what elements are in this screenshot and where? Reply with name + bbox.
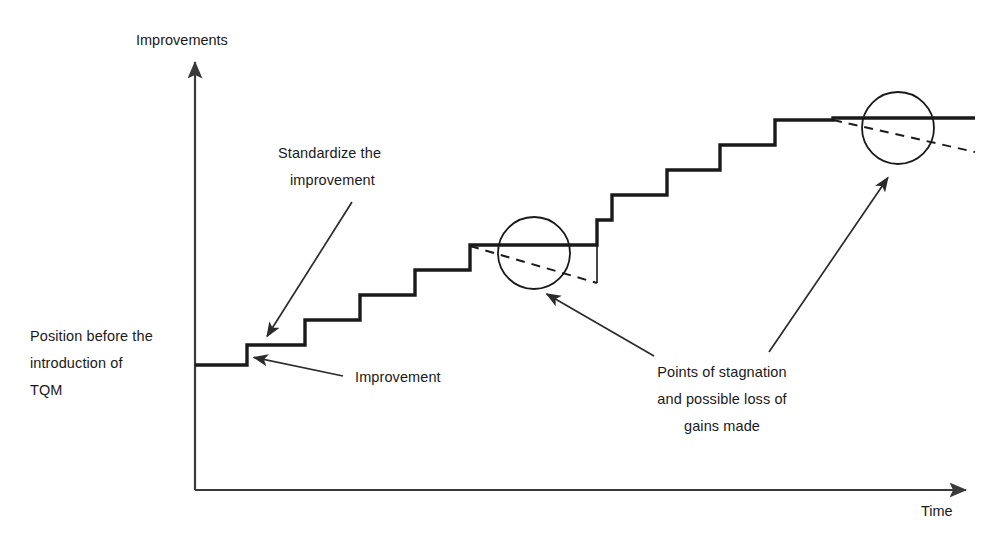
position-before-label-line2: introduction of bbox=[30, 355, 123, 371]
stagnation-label-line1: Points of stagnation bbox=[657, 364, 786, 380]
stagnation-circle-1 bbox=[498, 217, 570, 289]
stagnation-decline-2-line bbox=[833, 120, 975, 152]
stagnation-right-leader-arrow bbox=[769, 178, 888, 352]
leader-arrows-group bbox=[254, 178, 888, 376]
stagnation-decline-1-line bbox=[470, 246, 597, 283]
position-before-label-line1: Position before the bbox=[30, 328, 153, 344]
axes-group bbox=[195, 62, 966, 490]
x-axis-label: Time bbox=[921, 503, 953, 519]
standardize-leader-arrow bbox=[267, 202, 352, 336]
stagnation-label-line2: and possible loss of bbox=[657, 391, 787, 407]
position-before-label-line3: TQM bbox=[30, 382, 63, 398]
improvement-leader-arrow bbox=[254, 357, 343, 376]
improvement-label: Improvement bbox=[355, 369, 441, 385]
y-axis-label: Improvements bbox=[136, 32, 228, 48]
text-labels-group: Improvements Time Position before the in… bbox=[30, 32, 953, 519]
stagnation-label-line3: gains made bbox=[684, 418, 760, 434]
diagram-canvas: Improvements Time Position before the in… bbox=[0, 0, 992, 546]
stagnation-markers-group bbox=[498, 92, 934, 289]
standardize-label-line1: Standardize the bbox=[278, 145, 381, 161]
standardize-label-line2: improvement bbox=[290, 172, 375, 188]
stagnation-left-leader-arrow bbox=[547, 294, 654, 356]
tqm-improvement-diagram: Improvements Time Position before the in… bbox=[0, 0, 992, 546]
